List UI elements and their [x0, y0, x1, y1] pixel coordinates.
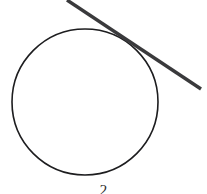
- figure-canvas: [0, 0, 207, 194]
- figure-caption: 2: [0, 183, 207, 194]
- figure-background: [0, 0, 207, 194]
- geometry-figure: 2: [0, 0, 207, 194]
